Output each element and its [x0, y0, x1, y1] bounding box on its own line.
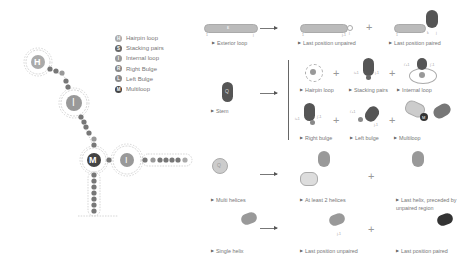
legend-label: Left Bulge [126, 76, 153, 82]
internal-node-top-label: I [72, 97, 75, 108]
right-bulge-rule-icon [304, 103, 315, 121]
arrow-icon [260, 228, 277, 229]
legend-label: Hairpin loop [126, 35, 158, 41]
index-label: i'+1 [350, 110, 355, 114]
index-label: j'-1 [317, 115, 321, 119]
right-bulge-nucleotide-icon [310, 120, 315, 125]
single-paired-helix-icon [436, 212, 455, 228]
legend-label: Multiloop [126, 86, 150, 92]
caption-at-least-2-helices: At least 2 helices [300, 197, 346, 203]
plus-icon: + [366, 21, 372, 33]
arrow-icon [260, 174, 277, 175]
legend-item-internal: I Internal loop [115, 53, 164, 63]
legend-item-stacking: S Stacking pairs [115, 43, 164, 53]
index-label: i+1 [295, 117, 300, 121]
multiloop-node-glyph: M [422, 115, 425, 120]
index-label: j-1 [374, 123, 378, 127]
left-bulge-rule-icon [362, 104, 381, 124]
bracket-line [288, 60, 289, 140]
caption-exterior-loop: Exterior loop [212, 40, 247, 46]
caption-multi-helices: Multi helices [211, 197, 246, 203]
caption-stacking-pairs: Stacking pairs [349, 87, 388, 93]
caption-single-helix: Single helix [211, 248, 244, 254]
right-bulge-icon: R [115, 65, 122, 72]
hairpin-rule-core-icon [310, 69, 316, 75]
caption-last-helix: Last helix, preceded by unpaired region [396, 197, 466, 212]
internal-loop-icon: I [115, 55, 122, 62]
legend-item-right-bulge: R Right Bulge [115, 64, 164, 74]
multiloop-right-helix-icon [431, 101, 453, 120]
plus-icon: + [368, 170, 374, 182]
caption-last-position-unpaired: Last position unpaired [298, 40, 356, 46]
multiloop-node-label: M [89, 155, 97, 165]
index-label: i'+1 [404, 63, 409, 67]
arrow-icon [260, 93, 277, 94]
multi-glyph: Q [217, 162, 221, 168]
legend-label: Stacking pairs [126, 45, 164, 51]
caption-internal-loop: Internal loop [397, 87, 432, 93]
legend-item-multiloop: M Multiloop [115, 84, 164, 94]
caption-stem: Stem [211, 108, 229, 114]
legend-label: Internal loop [126, 55, 159, 61]
index-label: i+1 [354, 71, 359, 75]
internal-rule-core-icon [419, 72, 425, 78]
internal-node-right-label: I [125, 155, 128, 165]
stacking-icon: S [115, 45, 122, 52]
arrow-icon [260, 28, 277, 29]
exterior-loop-pill [204, 24, 258, 33]
at-least-2-helices-left-icon [300, 172, 318, 186]
single-helix-icon [240, 211, 259, 227]
unpaired-nucleotide-icon [347, 25, 353, 31]
plus-icon: + [368, 223, 374, 235]
rna-secondary-structure [0, 0, 200, 267]
internal-rule-stem-icon [417, 58, 427, 70]
caption-hairpin-loop: Hairpin loop [300, 87, 334, 93]
caption-last-position-paired: Last position paired [389, 40, 441, 46]
index-label: j'-1 [430, 63, 434, 67]
stacking-pair-icon [366, 75, 371, 80]
index-label: j-1 [375, 71, 379, 75]
left-bulge-icon: L [115, 75, 122, 82]
index-label: j-1 [337, 232, 341, 236]
plus-icon: + [389, 114, 395, 126]
index-label: j-1 [342, 33, 346, 37]
legend: H Hairpin loop S Stacking pairs I Intern… [115, 33, 164, 94]
single-unpaired-helix-icon [328, 212, 347, 228]
index-label: 1 [206, 33, 208, 37]
exterior-unpaired-pill [300, 24, 348, 33]
stem-glyph: Q [225, 88, 229, 94]
exterior-glyph: ε [227, 24, 229, 30]
index-label: 1 [396, 33, 398, 37]
index-label: j [436, 31, 437, 35]
index-label: k [427, 31, 429, 35]
caption-single-last-paired: Last position paired [396, 248, 448, 254]
hairpin-node-label: H [34, 57, 41, 67]
plus-icon: + [389, 67, 395, 79]
index-label: j [349, 31, 350, 35]
legend-item-left-bulge: L Left Bulge [115, 74, 164, 84]
plus-icon: + [333, 67, 339, 79]
caption-right-bulge: Right bulge [300, 135, 332, 141]
legend-label: Right Bulge [126, 66, 157, 72]
caption-single-last-unpaired: Last position unpaired [300, 248, 358, 254]
multiloop-icon: M [115, 86, 122, 93]
hairpin-icon: H [115, 35, 122, 42]
paired-stem-icon [426, 10, 438, 28]
left-bulge-nucleotide-icon [358, 117, 363, 122]
index-label: 1 [302, 33, 304, 37]
last-helix-icon [412, 151, 424, 167]
caption-left-bulge: Left bulge [350, 135, 379, 141]
legend-item-hairpin: H Hairpin loop [115, 33, 164, 43]
plus-icon: + [333, 114, 339, 126]
exterior-paired-pill [394, 24, 426, 33]
stacking-rule-icon [363, 58, 374, 76]
at-least-2-helices-top-icon [318, 151, 330, 167]
caption-multiloop: Multiloop [394, 135, 421, 141]
index-label: j [253, 33, 254, 37]
